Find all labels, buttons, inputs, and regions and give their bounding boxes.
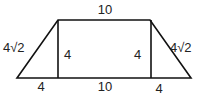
top-base-label: 10 (98, 2, 112, 17)
bottom-right-segment-label: 4 (155, 81, 162, 94)
bottom-left-segment-label: 4 (37, 79, 44, 94)
bottom-middle-segment-label: 10 (98, 79, 112, 94)
left-leg-label: 4√2 (3, 40, 25, 55)
left-height-label: 4 (64, 47, 71, 62)
trapezoid-outline (17, 20, 191, 78)
right-height-label: 4 (134, 47, 141, 62)
right-leg-label: 4√2 (170, 40, 192, 55)
trapezoid-diagram: 10 4√2 4√2 4 4 4 10 4 (0, 0, 199, 94)
